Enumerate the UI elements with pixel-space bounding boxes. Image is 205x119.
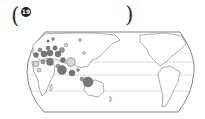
world-map [0,0,205,119]
